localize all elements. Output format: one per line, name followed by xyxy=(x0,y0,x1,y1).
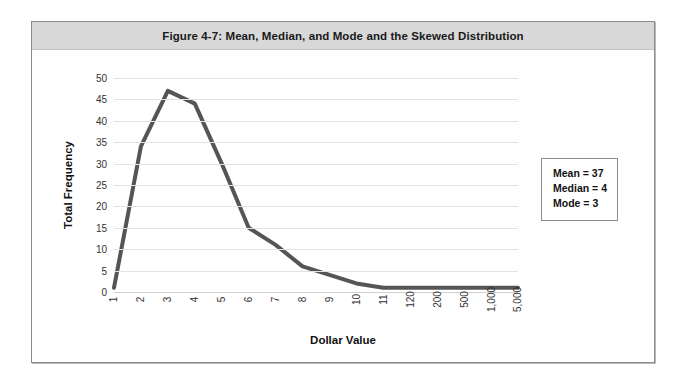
x-axis-tick-text: 10 xyxy=(351,294,362,305)
x-axis-tick-text: 3 xyxy=(162,297,173,303)
x-axis-title: Dollar Value xyxy=(32,334,654,346)
x-axis-tick-text: 8 xyxy=(297,297,308,303)
gridline xyxy=(114,249,518,250)
gridline xyxy=(114,78,518,79)
x-axis-tick-text: 200 xyxy=(432,291,443,308)
y-axis-tick-label: 50 xyxy=(96,73,107,84)
figure-frame: Figure 4-7: Mean, Median, and Mode and t… xyxy=(31,21,655,363)
y-axis-tick-label: 10 xyxy=(96,244,107,255)
y-axis-tick-label: 0 xyxy=(101,287,107,298)
gridline xyxy=(114,164,518,165)
y-axis-tick-label: 40 xyxy=(96,115,107,126)
y-axis-title: Total Frequency xyxy=(58,78,78,292)
gridline xyxy=(114,121,518,122)
x-axis-tick-text: 7 xyxy=(270,297,281,303)
y-axis-tick-label: 20 xyxy=(96,201,107,212)
y-axis-tick-label: 30 xyxy=(96,158,107,169)
gridline xyxy=(114,271,518,272)
gridline xyxy=(114,206,518,207)
x-axis-tick-text: 5 xyxy=(216,297,227,303)
gridline xyxy=(114,292,518,293)
gridline xyxy=(114,228,518,229)
y-axis-tick-label: 5 xyxy=(101,265,107,276)
y-axis-title-label: Total Frequency xyxy=(62,141,74,229)
x-axis-tick-text: 9 xyxy=(324,297,335,303)
x-axis-tick-text: 11 xyxy=(378,294,389,304)
y-axis-tick-label: 25 xyxy=(96,180,107,191)
stats-mode: Mode = 3 xyxy=(553,196,607,211)
gridline xyxy=(114,142,518,143)
x-axis-tick-text: 1,000 xyxy=(486,287,497,312)
x-axis-tick-text: 4 xyxy=(189,297,200,303)
x-axis-tick-text: 1 xyxy=(109,297,120,303)
x-axis-tick-text: 120 xyxy=(405,291,416,308)
figure-title: Figure 4-7: Mean, Median, and Mode and t… xyxy=(162,30,523,42)
gridline xyxy=(114,185,518,186)
figure-title-bar: Figure 4-7: Mean, Median, and Mode and t… xyxy=(32,22,654,50)
x-axis-tick-text: 2 xyxy=(135,297,146,303)
x-axis-tick-text: 500 xyxy=(459,291,470,308)
x-axis-tick-text: 5,000 xyxy=(513,287,524,312)
y-axis-tick-label: 45 xyxy=(96,94,107,105)
y-axis-tick-label: 15 xyxy=(96,222,107,233)
stats-box: Mean = 37 Median = 4 Mode = 3 xyxy=(541,158,618,221)
stats-mean: Mean = 37 xyxy=(553,166,607,181)
x-axis-tick-text: 6 xyxy=(243,297,254,303)
plot-area: 05101520253035404550 xyxy=(114,78,518,292)
stats-median: Median = 4 xyxy=(553,181,607,196)
y-axis-tick-label: 35 xyxy=(96,137,107,148)
gridline xyxy=(114,99,518,100)
